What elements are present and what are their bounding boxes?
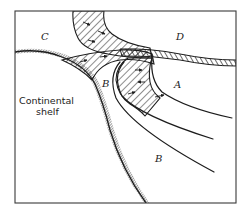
- label-region-c: C: [41, 31, 49, 42]
- label-region-d: D: [175, 31, 184, 42]
- label-continental-shelf-line1: Continental: [19, 95, 74, 106]
- isoline-1: [152, 58, 232, 118]
- label-region-a: A: [173, 79, 181, 90]
- lower-front-tongue: [116, 58, 164, 116]
- label-continental-shelf-line2: shelf: [36, 106, 59, 117]
- label-region-b-lower: B: [154, 153, 162, 164]
- label-region-b-upper: B: [101, 78, 109, 89]
- shelf-front-diagram: C D A B B Continental shelf: [0, 0, 249, 214]
